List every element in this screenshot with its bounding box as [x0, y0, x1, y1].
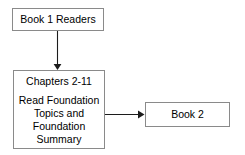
- arrow-chapters-to-book2: [105, 111, 145, 119]
- node-chapters-body-line-2: Topics and: [19, 107, 100, 120]
- arrowhead-right: [138, 111, 145, 119]
- node-book2: Book 2: [145, 102, 230, 127]
- node-chapters-title: Chapters 2-11: [26, 75, 92, 87]
- node-book1-readers: Book 1 Readers: [12, 8, 104, 31]
- arrow-book1-to-chapters: [54, 31, 62, 70]
- diagram-canvas: Book 1 Readers Chapters 2-11 Read Founda…: [0, 0, 245, 155]
- node-chapters-body-line-1: Read Foundation: [19, 94, 100, 107]
- node-chapters-body-line-4: Summary: [19, 133, 100, 146]
- node-book2-label: Book 2: [171, 108, 204, 120]
- node-book1-readers-label: Book 1 Readers: [20, 13, 95, 25]
- node-chapters-body-line-3: Foundation: [19, 120, 100, 133]
- node-chapters: Chapters 2-11 Read Foundation Topics and…: [13, 70, 105, 149]
- node-chapters-body: Read Foundation Topics and Foundation Su…: [19, 94, 100, 147]
